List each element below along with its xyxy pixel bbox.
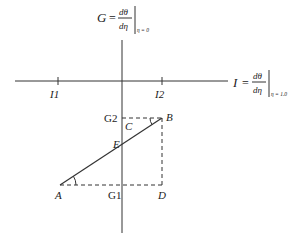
label-point-c: C <box>125 120 133 132</box>
angle-arc-a <box>73 176 76 185</box>
y-axis-denominator: dη <box>119 21 129 31</box>
line-a-b <box>60 118 162 185</box>
diagram-canvas: G = dθ dη η = 0 I = dθ dη η = 1.0 I1 I2 … <box>0 0 300 241</box>
label-point-a: A <box>54 189 62 201</box>
y-axis-numerator: dθ <box>119 7 129 17</box>
tick-label-i1: I1 <box>49 88 59 100</box>
y-axis-equals: = <box>109 11 116 25</box>
label-g1: G1 <box>108 189 121 201</box>
label-point-b: B <box>166 111 173 123</box>
y-axis-symbol: G <box>97 10 107 25</box>
tick-label-i2: I2 <box>154 88 165 100</box>
label-point-d: D <box>157 189 166 201</box>
x-axis-numerator: dθ <box>253 71 263 81</box>
x-axis-symbol: I <box>232 75 238 90</box>
label-g2: G2 <box>104 112 117 124</box>
x-axis-subscript: η = 1.0 <box>271 91 287 97</box>
y-axis-subscript: η = 0 <box>137 27 149 33</box>
label-point-e: E <box>112 138 120 150</box>
x-axis-label: I = dθ dη η = 1.0 <box>232 70 287 97</box>
x-axis-equals: = <box>242 76 249 90</box>
y-axis-label: G = dθ dη η = 0 <box>97 6 149 34</box>
angle-arc-b <box>150 118 152 125</box>
x-axis-denominator: dη <box>253 85 263 95</box>
